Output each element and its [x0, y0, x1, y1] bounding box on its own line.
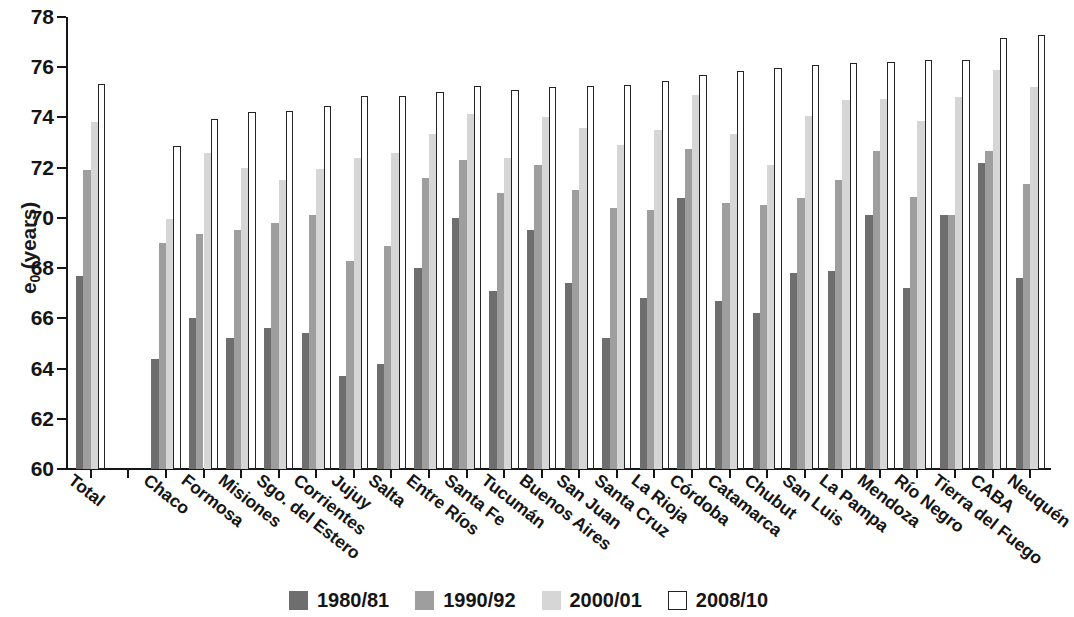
bar [624, 85, 631, 469]
y-axis-tick [57, 167, 66, 169]
bar [549, 87, 556, 469]
bar [377, 364, 384, 469]
bar [865, 215, 872, 469]
bar [925, 60, 932, 469]
y-axis-tick-label: 78 [8, 6, 54, 27]
legend-item: 1990/92 [415, 589, 515, 612]
y-axis-tick [57, 66, 66, 68]
bar-group [189, 17, 218, 469]
bar [730, 134, 737, 469]
bar [962, 60, 969, 469]
bar [880, 99, 887, 469]
bar [677, 198, 684, 469]
bar [196, 234, 203, 469]
bar [248, 112, 255, 469]
bar [828, 271, 835, 469]
bar [511, 90, 518, 469]
bar [489, 291, 496, 469]
bar [339, 376, 346, 469]
bar [1030, 87, 1037, 469]
bar-group [76, 17, 105, 469]
bar [797, 198, 804, 469]
bar [399, 96, 406, 469]
bar [504, 158, 511, 469]
bar [887, 62, 894, 469]
bar [542, 117, 549, 469]
bar [279, 180, 286, 469]
y-axis-tick-label: 68 [8, 257, 54, 278]
bar [391, 153, 398, 469]
bar [459, 160, 466, 469]
legend-swatch-icon [668, 591, 687, 610]
y-axis-line [66, 17, 68, 470]
bar [903, 288, 910, 469]
bar [414, 268, 421, 469]
bar-group [940, 17, 969, 469]
bar [835, 180, 842, 469]
bar [767, 165, 774, 469]
bar [302, 333, 309, 469]
bar [361, 96, 368, 469]
bar-group [452, 17, 481, 469]
y-axis-tick [57, 16, 66, 18]
bar [83, 170, 90, 469]
bar [346, 261, 353, 469]
bar [654, 130, 661, 469]
legend-label: 2000/01 [570, 589, 642, 612]
bar-group [339, 17, 368, 469]
bar [286, 111, 293, 469]
bar [662, 81, 669, 469]
y-axis-tick-labels: 60626466687072747678 [8, 17, 54, 469]
y-axis-tick [57, 368, 66, 370]
bar [91, 122, 98, 469]
bar [610, 208, 617, 469]
chart-legend: 1980/811990/922000/012008/10 [0, 586, 1057, 614]
bar [422, 178, 429, 469]
bar [324, 106, 331, 469]
bar [873, 151, 880, 469]
bar-group [264, 17, 293, 469]
bar [309, 215, 316, 469]
bar [474, 86, 481, 469]
bar [534, 165, 541, 469]
bar [647, 210, 654, 469]
bar [940, 215, 947, 469]
bar [1000, 38, 1007, 469]
bar [204, 153, 211, 469]
bar-group [715, 17, 744, 469]
bar-group [753, 17, 782, 469]
bar [579, 128, 586, 470]
bar [436, 92, 443, 469]
legend-label: 2008/10 [696, 589, 768, 612]
bar-group [602, 17, 631, 469]
legend-item: 2008/10 [668, 589, 768, 612]
bar [316, 169, 323, 469]
bar [760, 205, 767, 469]
bar [1038, 35, 1045, 469]
bar-group [640, 17, 669, 469]
bar-group [1016, 17, 1045, 469]
bar [910, 197, 917, 469]
bar [1016, 278, 1023, 469]
legend-item: 2000/01 [542, 589, 642, 612]
bar [166, 219, 173, 469]
bar [692, 95, 699, 469]
x-axis-tick-label: Total [64, 470, 108, 511]
bar-group [489, 17, 518, 469]
bar [617, 145, 624, 469]
y-axis-tick [57, 116, 66, 118]
bar [452, 218, 459, 469]
y-axis-tick [57, 317, 66, 319]
bar [699, 75, 706, 469]
bar [774, 68, 781, 469]
bar-group [865, 17, 894, 469]
bar [602, 338, 609, 469]
bar [917, 121, 924, 469]
bar [722, 203, 729, 469]
plot-area: 60626466687072747678 [66, 17, 1051, 469]
bar [955, 97, 962, 469]
bar [429, 134, 436, 469]
y-axis-tick-label: 76 [8, 56, 54, 77]
y-axis-tick [57, 418, 66, 420]
